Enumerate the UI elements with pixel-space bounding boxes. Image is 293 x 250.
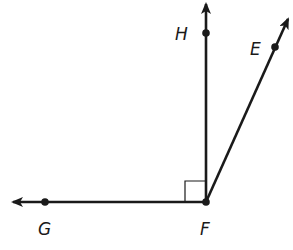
label-e: E bbox=[250, 39, 261, 59]
label-g: G bbox=[38, 219, 51, 239]
point-h bbox=[202, 29, 210, 37]
label-h: H bbox=[175, 24, 188, 44]
geometry-diagram: H E G F bbox=[0, 0, 293, 250]
point-g bbox=[41, 198, 49, 206]
point-e bbox=[271, 43, 279, 51]
right-angle-marker bbox=[185, 181, 206, 202]
point-f bbox=[202, 198, 210, 206]
label-f: F bbox=[200, 219, 210, 239]
